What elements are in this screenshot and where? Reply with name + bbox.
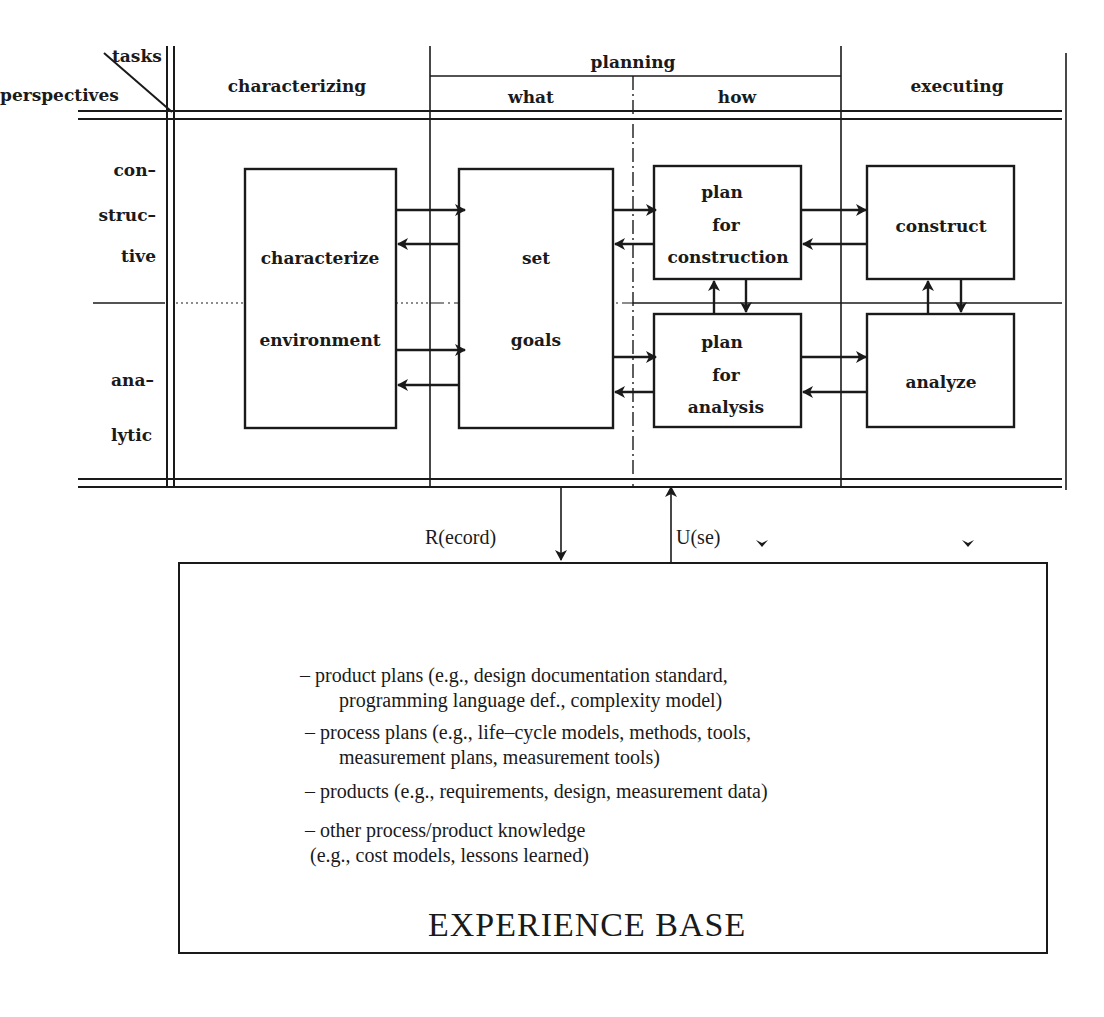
box-plan-construction-line2: for bbox=[712, 215, 740, 235]
box-set-goals-line1: set bbox=[522, 248, 550, 268]
row-label-analytic-1: ana– bbox=[111, 370, 154, 390]
column-header-planning: planning bbox=[591, 52, 676, 72]
kb-item-product-plans-line2: programming language def., complexity mo… bbox=[339, 688, 722, 712]
experience-base-title: EXPERIENCE BASE bbox=[428, 906, 746, 944]
row-label-analytic-2: lytic bbox=[111, 425, 152, 445]
column-header-what: what bbox=[508, 87, 554, 107]
box-characterize-environment-line1: characterize bbox=[261, 248, 380, 268]
kb-item-products: – products (e.g., requirements, design, … bbox=[305, 779, 768, 803]
corner-label-tasks: tasks bbox=[112, 46, 162, 66]
row-label-constructive-1: con– bbox=[113, 160, 156, 180]
corner-label-perspectives: perspectives bbox=[0, 85, 119, 105]
box-plan-construction-line1: plan bbox=[701, 182, 743, 202]
diagram-canvas: tasks perspectives characterizing planni… bbox=[0, 0, 1104, 1017]
box-plan-construction-line3: construction bbox=[667, 247, 788, 267]
column-header-executing: executing bbox=[910, 76, 1003, 96]
box-set-goals-line2: goals bbox=[511, 330, 561, 350]
column-header-characterizing: characterizing bbox=[228, 76, 367, 96]
flow-label-use: U(se) bbox=[676, 525, 720, 549]
kb-item-other-knowledge-line1: – other process/product knowledge bbox=[305, 818, 585, 842]
row-label-constructive-2: struc– bbox=[98, 205, 156, 225]
box-characterize-environment-line2: environment bbox=[259, 330, 380, 350]
flow-label-record: R(ecord) bbox=[425, 525, 496, 549]
box-analyze: analyze bbox=[905, 372, 976, 392]
box-plan-analysis-line1: plan bbox=[701, 332, 743, 352]
row-label-constructive-3: tive bbox=[121, 246, 156, 266]
kb-item-process-plans-line1: – process plans (e.g., life–cycle models… bbox=[305, 720, 751, 744]
kb-item-other-knowledge-line2: (e.g., cost models, lessons learned) bbox=[310, 843, 589, 867]
kb-item-process-plans-line2: measurement plans, measurement tools) bbox=[339, 745, 660, 769]
kb-item-product-plans-line1: – product plans (e.g., design documentat… bbox=[300, 663, 728, 687]
box-construct: construct bbox=[896, 216, 987, 236]
box-plan-analysis-line3: analysis bbox=[688, 397, 764, 417]
column-header-how: how bbox=[718, 87, 756, 107]
box-plan-analysis-line2: for bbox=[712, 365, 740, 385]
